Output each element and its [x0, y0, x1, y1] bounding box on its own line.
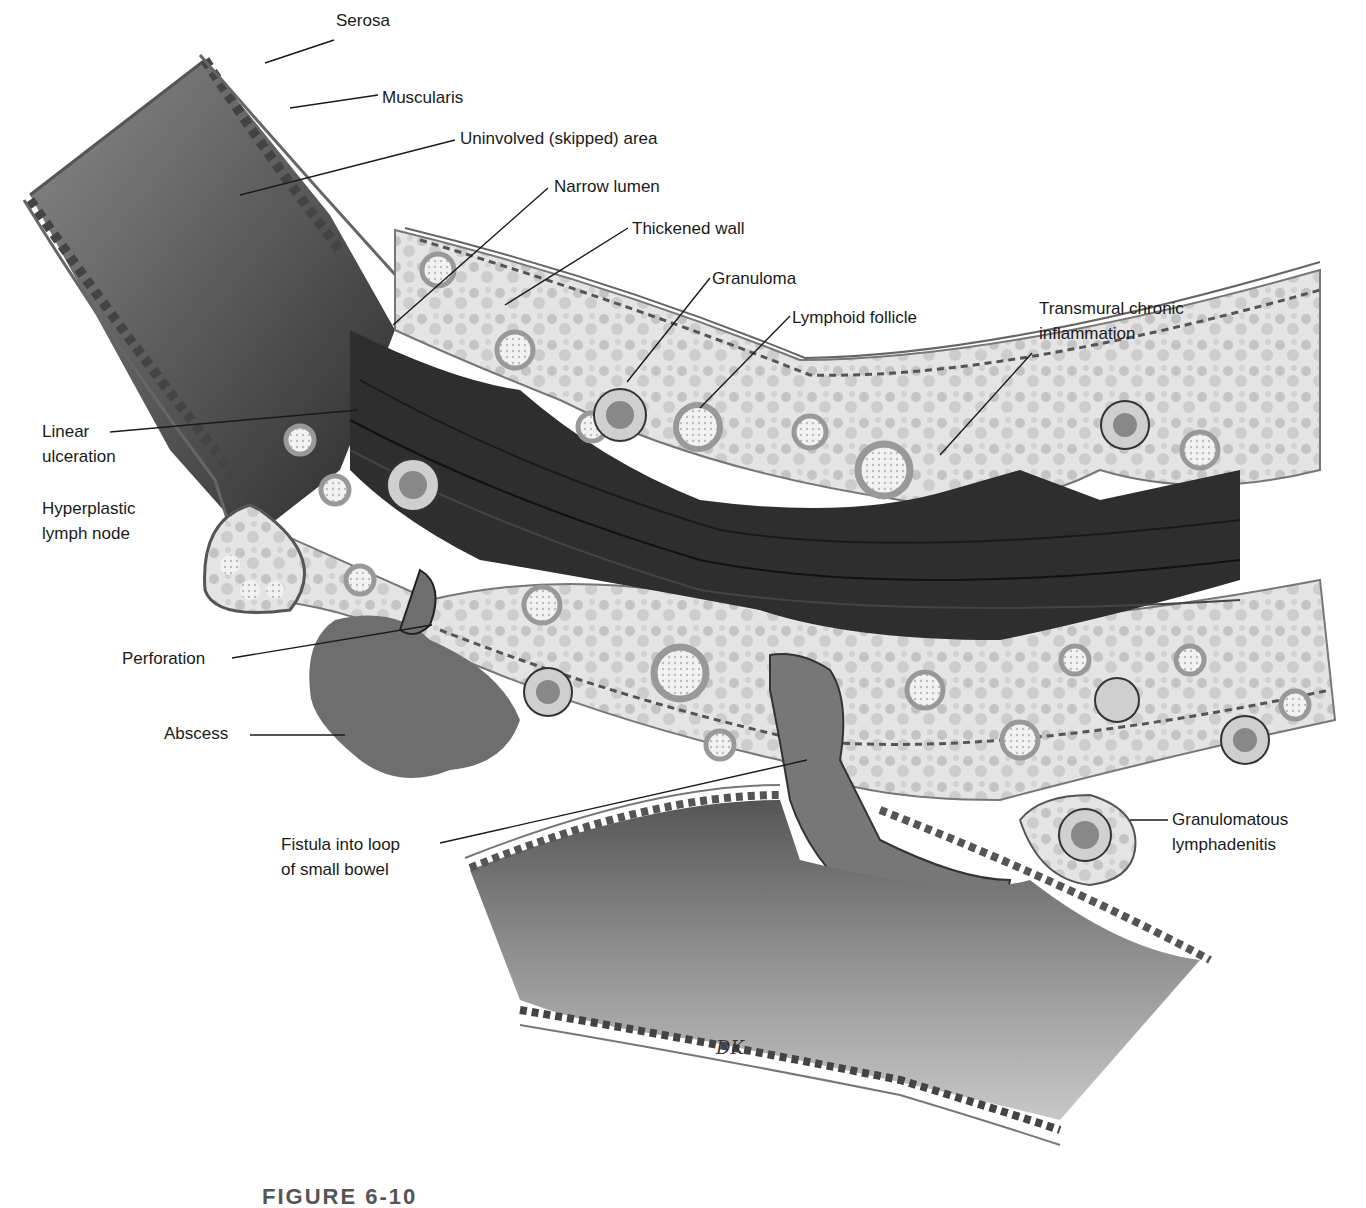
label-perforation: Perforation	[122, 648, 205, 670]
artist-signature: DK	[716, 1037, 744, 1058]
label-hyperplastic-line1: Hyperplastic	[42, 498, 136, 520]
label-abscess: Abscess	[164, 723, 228, 745]
label-linear-line2: ulceration	[42, 446, 116, 468]
label-fistula-line1: Fistula into loop	[281, 834, 400, 856]
label-muscularis: Muscularis	[382, 87, 463, 109]
label-linear-line1: Linear	[42, 421, 89, 443]
label-granuloma: Granuloma	[712, 268, 796, 290]
figure-caption-partial: FIGURE 6-10	[262, 1184, 417, 1208]
label-thickened-wall: Thickened wall	[632, 218, 744, 240]
hyperplastic-lymph-node	[205, 505, 305, 613]
label-lymphoid-follicle: Lymphoid follicle	[792, 307, 917, 329]
label-transmural-line2: inflammation	[1039, 323, 1135, 345]
label-narrow-lumen: Narrow lumen	[554, 176, 660, 198]
label-granulomatous-line1: Granulomatous	[1172, 809, 1288, 831]
label-hyperplastic-line2: lymph node	[42, 523, 130, 545]
label-granulomatous-line2: lymphadenitis	[1172, 834, 1276, 856]
label-fistula-line2: of small bowel	[281, 859, 389, 881]
label-uninvolved-area: Uninvolved (skipped) area	[460, 128, 658, 150]
label-transmural-line1: Transmural chronic	[1039, 298, 1184, 320]
label-serosa: Serosa	[336, 10, 390, 32]
